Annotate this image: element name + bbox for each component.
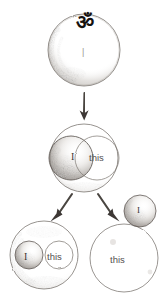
bottom-left-i-label: I [24, 252, 27, 262]
om-circle-i-mark: | [82, 48, 84, 57]
bottom-right-this-label: this [110, 255, 125, 265]
separated-circles-group [90, 195, 158, 292]
arrow-down-right [98, 194, 120, 222]
arrow-down-left [51, 194, 73, 222]
br-i-sphere [124, 195, 156, 227]
diagram-canvas: ॐ | I this I this I this [0, 0, 168, 298]
overlap-circle-group [48, 124, 119, 194]
mid-this-label: this [89, 153, 104, 163]
mid-i-label: I [71, 152, 74, 162]
arrow-down [80, 93, 89, 121]
bl-i-sphere [15, 241, 43, 269]
contained-circle-group [10, 221, 78, 290]
bottom-left-this-label: this [47, 252, 62, 262]
om-symbol-label: ॐ [76, 12, 94, 32]
bottom-right-i-label: I [137, 206, 140, 215]
